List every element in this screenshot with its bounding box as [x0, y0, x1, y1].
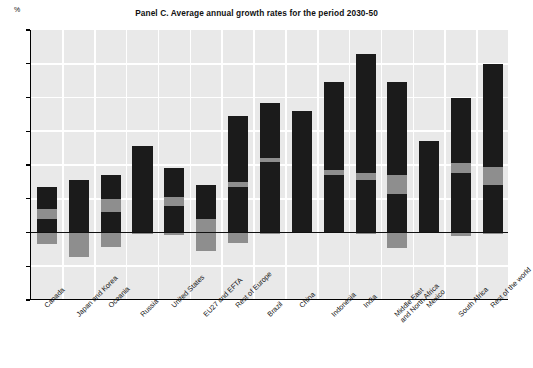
y-tick-mark	[26, 131, 30, 132]
gridline-x	[158, 30, 160, 299]
bar-segment-middle-gray	[483, 167, 503, 186]
bar-segment-middle-gray	[356, 173, 376, 180]
bar-segment-middle-gray	[228, 182, 248, 187]
gridline-x	[285, 30, 287, 299]
bar-segment-upper-dark	[37, 187, 57, 209]
bar-segment-middle-gray	[196, 219, 216, 233]
bar-group[interactable]	[228, 30, 248, 299]
y-tick-mark	[26, 63, 30, 64]
gridline-x	[126, 30, 128, 299]
bar-group[interactable]	[101, 30, 121, 299]
bar-group[interactable]	[356, 30, 376, 299]
y-tick-mark	[26, 299, 30, 300]
bar-segment-lower-dark	[132, 199, 152, 233]
bar-segment-middle-gray	[260, 158, 280, 161]
bar-group[interactable]	[451, 30, 471, 299]
bar-segment-middle-gray	[451, 163, 471, 173]
bar-group[interactable]	[69, 30, 89, 299]
bar-segment-middle-gray	[101, 199, 121, 213]
bar-segment-upper-dark	[419, 141, 439, 192]
bar-segment-lower-dark	[37, 219, 57, 233]
gridline-x	[94, 30, 96, 299]
y-tick-mark	[26, 29, 30, 30]
bar-segment-lower-dark	[324, 175, 344, 232]
bar-segment-lower-dark	[69, 180, 89, 232]
bar-segment-upper-dark	[101, 175, 121, 199]
y-tick-mark	[26, 97, 30, 98]
gridline-x	[444, 30, 446, 299]
bar-segment-lower-dark	[292, 197, 312, 232]
bar-group[interactable]	[324, 30, 344, 299]
bar-segment-middle-gray	[324, 170, 344, 175]
gridline-x	[62, 30, 64, 299]
plot-area	[30, 30, 508, 300]
bar-segment-negative-gray	[228, 233, 248, 243]
bar-group[interactable]	[37, 30, 57, 299]
bar-group[interactable]	[132, 30, 152, 299]
bar-group[interactable]	[164, 30, 184, 299]
gridline-x	[317, 30, 319, 299]
gridline-x	[413, 30, 415, 299]
bar-segment-upper-dark	[451, 98, 471, 164]
bar-segment-negative-gray	[387, 233, 407, 248]
gridline-x	[476, 30, 478, 299]
bar-segment-negative-gray	[101, 233, 121, 247]
gridline-x	[221, 30, 223, 299]
y-tick-mark	[26, 232, 30, 233]
bar-segment-lower-dark	[451, 173, 471, 232]
bar-group[interactable]	[260, 30, 280, 299]
bar-group[interactable]	[387, 30, 407, 299]
bar-segment-upper-dark	[228, 116, 248, 182]
bar-segment-lower-dark	[483, 185, 503, 232]
zero-line	[31, 232, 508, 233]
bar-segment-upper-dark	[196, 185, 216, 219]
bar-group[interactable]	[292, 30, 312, 299]
y-tick-mark	[26, 266, 30, 267]
bar-segment-middle-gray	[164, 197, 184, 205]
bar-segment-lower-dark	[260, 162, 280, 233]
bar-segment-middle-gray	[387, 175, 407, 194]
bar-segment-upper-dark	[260, 103, 280, 159]
bar-segment-upper-dark	[132, 146, 152, 198]
bar-segment-negative-gray	[37, 233, 57, 245]
bar-segment-upper-dark	[324, 82, 344, 170]
bar-segment-lower-dark	[164, 206, 184, 233]
chart-title: Panel C. Average annual growth rates for…	[0, 8, 513, 18]
bar-segment-upper-dark	[292, 111, 312, 197]
bar-group[interactable]	[483, 30, 503, 299]
bar-segment-lower-dark	[101, 212, 121, 232]
x-tick-label: Russia	[139, 297, 160, 318]
bar-segment-lower-dark	[419, 192, 439, 233]
bar-segment-negative-gray	[196, 233, 216, 252]
y-tick-mark	[26, 198, 30, 199]
bar-segment-middle-gray	[37, 209, 57, 219]
gridline-x	[253, 30, 255, 299]
gridline-x	[349, 30, 351, 299]
bar-segment-lower-dark	[387, 194, 407, 233]
bar-segment-upper-dark	[356, 54, 376, 174]
x-tick-label: Brazil	[266, 300, 285, 319]
bar-segment-negative-gray	[69, 233, 89, 257]
bar-segment-upper-dark	[164, 168, 184, 197]
bar-group[interactable]	[196, 30, 216, 299]
x-axis-labels: CanadaJapan and KoreaOceaniaRussiaUnited…	[30, 302, 508, 368]
bar-segment-upper-dark	[483, 64, 503, 167]
bar-segment-upper-dark	[387, 82, 407, 175]
bar-segment-lower-dark	[228, 187, 248, 233]
bar-group[interactable]	[419, 30, 439, 299]
bar-segment-lower-dark	[356, 180, 376, 232]
y-tick-mark	[26, 164, 30, 165]
gridline-x	[381, 30, 383, 299]
gridline-x	[190, 30, 192, 299]
